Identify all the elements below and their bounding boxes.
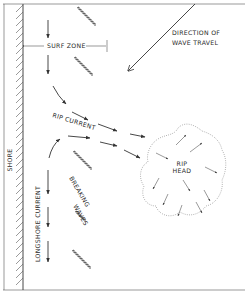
direction-label-line1: DIRECTION OF: [172, 29, 220, 36]
breaking-label: BREAKING: [68, 175, 91, 208]
rip-current-diagram: SHORE SURF ZONE DIRECTION OF WAVE TRAVEL…: [0, 0, 246, 296]
rip-head-label-line1: RIP: [177, 160, 188, 167]
direction-label-line2: WAVE TRAVEL: [172, 39, 219, 46]
longshore-current-label: LONGSHORE CURRENT: [34, 186, 41, 262]
feeder-current-arrows: [48, 20, 66, 104]
wave-direction-arrow: [128, 4, 195, 71]
rip-head-label-line2: HEAD: [173, 167, 192, 174]
shore-line: [16, 4, 23, 290]
surf-zone-label: SURF ZONE: [47, 42, 86, 49]
rip-current-label: RIP CURRENT: [52, 111, 97, 131]
shore-label: SHORE: [6, 148, 13, 171]
longshore-current-arrows: [48, 139, 60, 262]
rip-head-arrows: [153, 135, 217, 216]
